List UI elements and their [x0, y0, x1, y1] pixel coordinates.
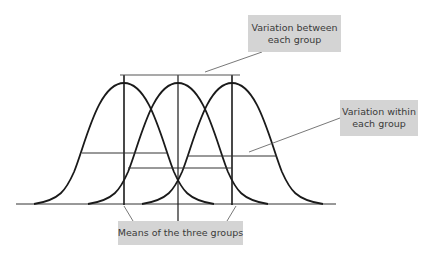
pointer-means-1 [124, 206, 133, 221]
label-between-line2: each group [268, 34, 322, 46]
label-within-line1: Variation within [342, 106, 416, 118]
label-means-text: Means of the three groups [118, 227, 243, 239]
pointer-means-3 [227, 206, 236, 221]
label-between-line1: Variation between [251, 22, 337, 34]
label-within-line2: each group [352, 118, 406, 130]
label-means: Means of the three groups [118, 221, 243, 245]
pointer-within [249, 118, 340, 152]
label-variation-within: Variation within each group [340, 100, 418, 136]
pointer-between [205, 52, 262, 72]
label-variation-between: Variation between each group [248, 15, 341, 52]
